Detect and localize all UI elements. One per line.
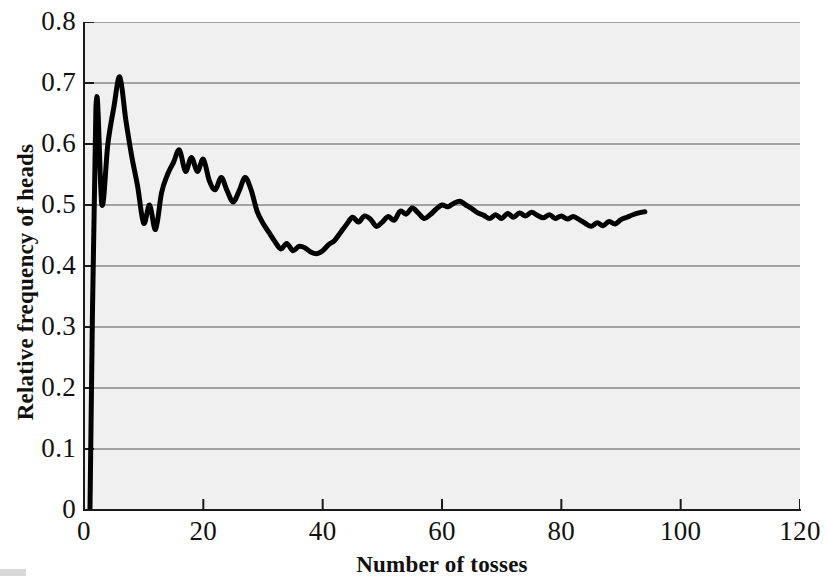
- gridlines: [84, 22, 800, 449]
- x-tick-label: 40: [309, 518, 337, 545]
- x-axis-title: Number of tosses: [84, 552, 800, 578]
- y-axis-title: Relative frequency of heads: [10, 37, 42, 527]
- plot-area: [84, 22, 800, 510]
- x-tick-label: 100: [660, 518, 701, 545]
- plot-canvas: [84, 22, 800, 510]
- page-edge-artifact: [0, 569, 26, 576]
- x-tick-label: 20: [190, 518, 218, 545]
- y-tick-label: 0.8: [12, 8, 76, 35]
- x-tick-label: 120: [779, 518, 820, 545]
- x-axis-line: [83, 509, 801, 511]
- y-axis-title-wrapper: Relative frequency of heads: [10, 37, 42, 527]
- y-axis-line: [83, 22, 85, 511]
- x-tick-label: 60: [428, 518, 456, 545]
- x-tick-label: 0: [77, 518, 91, 545]
- data-series-line: [90, 77, 645, 510]
- x-tick-label: 80: [548, 518, 576, 545]
- chart-page: 0.80.70.60.50.40.30.20.10 02040608010012…: [0, 0, 827, 580]
